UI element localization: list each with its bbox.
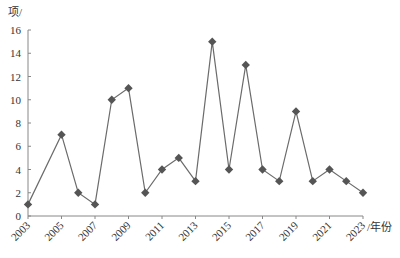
y-tick-label: 4 — [16, 164, 22, 176]
diamond-marker — [225, 165, 233, 173]
y-axis-title: 项/ — [8, 6, 23, 18]
x-tick-label: 2023 — [343, 219, 367, 243]
y-axis: 0246810121416 — [10, 24, 31, 222]
y-tick-label: 16 — [10, 24, 22, 36]
diamond-marker — [175, 154, 183, 162]
line-chart: 项/ 0246810121416 20032005200720092011201… — [0, 0, 400, 258]
diamond-marker — [325, 165, 333, 173]
diamond-marker — [191, 177, 199, 185]
x-axis: 2003200520072009201120132015201720192021… — [8, 216, 367, 243]
y-tick-label: 12 — [10, 71, 21, 83]
x-tick-label: 2017 — [243, 219, 267, 243]
diamond-marker — [242, 61, 250, 69]
diamond-marker — [275, 177, 283, 185]
y-tick-label: 14 — [10, 47, 22, 59]
y-tick-label: 0 — [16, 210, 22, 222]
x-axis-title: /年份 — [367, 220, 392, 233]
diamond-marker — [359, 189, 367, 197]
diamond-marker — [124, 84, 132, 92]
x-tick-label: 2019 — [276, 219, 300, 243]
diamond-marker — [342, 177, 350, 185]
diamond-marker — [57, 130, 65, 138]
y-tick-label: 2 — [16, 187, 22, 199]
y-tick-label: 10 — [10, 94, 22, 106]
x-tick-label: 2021 — [310, 219, 334, 243]
x-tick-label: 2005 — [42, 219, 66, 243]
y-tick-label: 8 — [16, 117, 22, 129]
y-tick-label: 6 — [16, 140, 22, 152]
x-tick-label: 2011 — [143, 219, 167, 243]
x-tick-label: 2003 — [8, 219, 32, 243]
diamond-marker — [91, 200, 99, 208]
x-tick-label: 2009 — [109, 219, 133, 243]
diamond-marker — [141, 189, 149, 197]
x-tick-label: 2007 — [75, 219, 99, 243]
diamond-marker — [74, 189, 82, 197]
diamond-marker — [24, 200, 32, 208]
diamond-marker — [309, 177, 317, 185]
x-tick-label: 2015 — [209, 219, 233, 243]
diamond-marker — [108, 96, 116, 104]
diamond-marker — [208, 37, 216, 45]
diamond-marker — [258, 165, 266, 173]
diamond-marker — [158, 165, 166, 173]
diamond-marker — [292, 107, 300, 115]
x-tick-label: 2013 — [176, 219, 200, 243]
